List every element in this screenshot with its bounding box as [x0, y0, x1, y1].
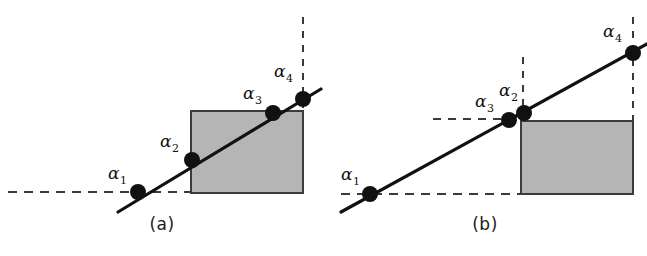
label-alpha-4: α4 [603, 23, 622, 44]
alpha-glyph: α [160, 131, 171, 151]
label-alpha-1: α1 [341, 166, 360, 187]
point-alpha-2 [184, 152, 200, 168]
point-alpha-3 [501, 112, 517, 128]
point-alpha-1 [130, 184, 146, 200]
alpha-subscript: 3 [487, 102, 494, 115]
alpha-subscript: 4 [615, 32, 622, 45]
label-alpha-3: α3 [243, 85, 262, 106]
point-alpha-2 [516, 105, 532, 121]
alpha-glyph: α [475, 91, 486, 111]
panel-b: α1 α3 α2 α4 (b) [323, 0, 647, 256]
alpha-glyph: α [274, 61, 285, 81]
alpha-subscript: 1 [353, 175, 360, 188]
panel-a-caption: (a) [0, 214, 324, 234]
label-alpha-2: α2 [499, 82, 518, 103]
shaded-rectangle [191, 111, 303, 193]
alpha-subscript: 4 [286, 72, 293, 85]
alpha-subscript: 3 [255, 94, 262, 107]
label-alpha-1: α1 [108, 165, 127, 186]
alpha-subscript: 2 [172, 142, 179, 155]
alpha-subscript: 1 [120, 174, 127, 187]
alpha-subscript: 2 [511, 91, 518, 104]
alpha-glyph: α [243, 83, 254, 103]
panel-b-caption: (b) [323, 214, 647, 234]
label-alpha-2: α2 [160, 133, 179, 154]
point-alpha-3 [265, 105, 281, 121]
point-alpha-4 [295, 91, 311, 107]
point-alpha-4 [625, 45, 641, 61]
alpha-glyph: α [499, 80, 510, 100]
alpha-glyph: α [108, 163, 119, 183]
label-alpha-3: α3 [475, 93, 494, 114]
label-alpha-4: α4 [274, 63, 293, 84]
alpha-glyph: α [341, 164, 352, 184]
alpha-glyph: α [603, 21, 614, 41]
shaded-rectangle [521, 121, 633, 194]
figure-container: α1 α2 α3 α4 (a) α1 α3 α2 α4 [0, 0, 647, 256]
point-alpha-1 [362, 186, 378, 202]
panel-a: α1 α2 α3 α4 (a) [0, 0, 324, 256]
